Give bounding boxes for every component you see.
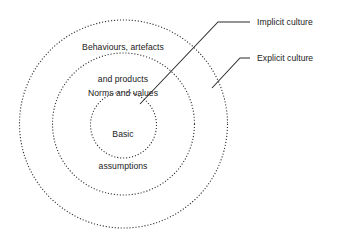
ring-label-basic-line1: Basic xyxy=(99,129,148,140)
callout-label-implicit-culture: Implicit culture xyxy=(257,17,313,28)
ring-label-basic-line2: assumptions xyxy=(99,161,148,172)
callout-label-explicit-culture: Explicit culture xyxy=(257,53,313,64)
leader-line-explicit-culture xyxy=(212,58,250,88)
diagram-canvas xyxy=(0,0,342,246)
culture-onion-diagram: Behaviours, artefacts and products Norms… xyxy=(0,0,342,246)
ring-label-basic-assumptions: Basic assumptions xyxy=(99,108,148,193)
ring-label-behaviours-line1: Behaviours, artefacts xyxy=(82,42,164,53)
ring-label-norms-line1: Norms and values xyxy=(88,88,158,99)
